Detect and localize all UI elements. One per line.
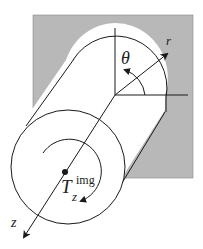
diagram-canvas: θ r z T z img [0,0,203,249]
torque-label-subscript: z [71,189,77,204]
theta-label: θ [121,48,130,68]
torque-label-superscript: img [76,173,95,187]
cylinder-front-face [11,110,125,224]
center-point [62,169,68,175]
z-label: z [10,215,17,230]
